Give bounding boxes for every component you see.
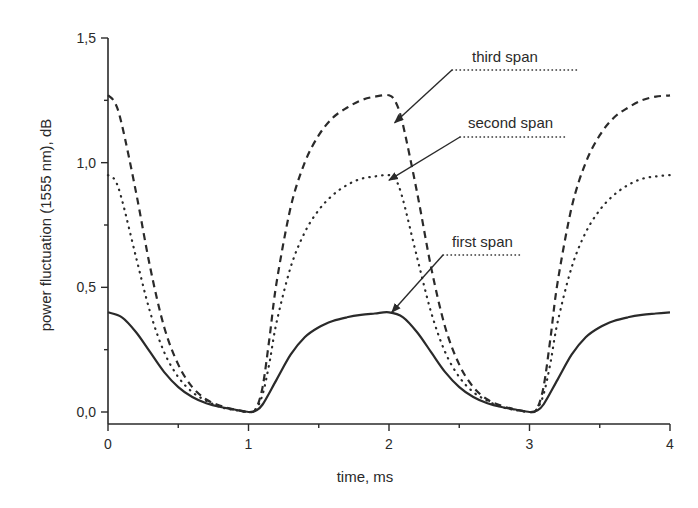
series-first-span bbox=[108, 312, 670, 412]
x-tick-label: 0 bbox=[104, 436, 112, 452]
x-axis-title: time, ms bbox=[337, 468, 394, 485]
label-third-span: third span bbox=[472, 48, 538, 65]
label-first-span: first span bbox=[452, 233, 513, 250]
y-tick-label: 1,0 bbox=[77, 155, 97, 171]
axes: 0,00,51,01,501234 bbox=[77, 30, 675, 452]
annotations bbox=[389, 70, 578, 312]
chart: 0,00,51,01,501234 time, ms power fluctua… bbox=[0, 0, 698, 508]
y-axis-title: power fluctuation (1555 nm), dB bbox=[37, 119, 54, 332]
annotation-arrow-icon bbox=[389, 137, 460, 180]
x-tick-label: 4 bbox=[666, 436, 674, 452]
y-tick-label: 0,5 bbox=[77, 279, 97, 295]
y-tick-label: 1,5 bbox=[77, 30, 97, 46]
series-second-span bbox=[108, 175, 670, 412]
x-tick-label: 3 bbox=[526, 436, 534, 452]
series-third-span bbox=[108, 95, 670, 412]
annotation-arrow-icon bbox=[395, 70, 452, 123]
x-tick-label: 1 bbox=[245, 436, 253, 452]
series-group bbox=[108, 95, 670, 412]
x-tick-label: 2 bbox=[385, 436, 393, 452]
label-second-span: second span bbox=[468, 114, 553, 131]
y-tick-label: 0,0 bbox=[77, 404, 97, 420]
